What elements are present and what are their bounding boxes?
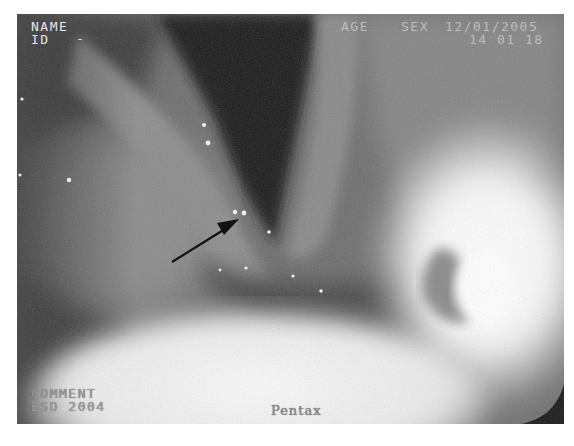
comment-value: ESD 2004 [31, 400, 106, 413]
age-label: AGE [341, 20, 369, 33]
sex-label: SEX [401, 20, 429, 33]
patient-id-label: ID [31, 33, 50, 46]
device-brand-label: Pentax [271, 404, 322, 417]
endoscopy-image: NAME ID - AGE SEX 12/01/2005 14 01 18 CO… [17, 14, 564, 424]
patient-id-value: - [76, 32, 85, 45]
endoscopy-scene [17, 14, 564, 424]
exam-time: 14 01 18 [469, 33, 544, 46]
